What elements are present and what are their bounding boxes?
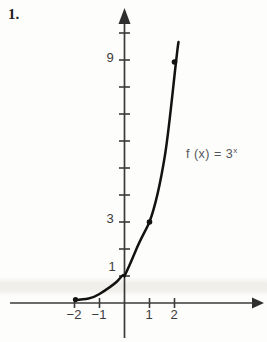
y-tick-label-9: 9 [104,50,116,65]
data-point-marker [147,219,153,225]
x-tick-label-2: 2 [168,307,180,322]
function-expression-base: f (x) = 3 [186,147,233,161]
x-tick-label-neg1: −1 [89,307,109,322]
function-expression-exponent: x [233,146,237,155]
x-tick-label-neg2: −2 [64,307,84,322]
y-axis-arrow-icon [119,8,131,24]
exponential-curve [75,42,179,300]
y-tick-label-3: 3 [104,211,116,226]
x-axis-arrow-icon [252,298,264,309]
y-tick-label-1: 1 [106,259,118,274]
exponential-function-figure: 1. [0,0,267,342]
function-expression-label: f (x) = 3x [186,146,237,161]
x-tick-label-1: 1 [143,307,155,322]
data-point-marker [172,59,178,65]
data-point-marker [73,297,78,302]
coordinate-plane-plot [0,0,267,342]
